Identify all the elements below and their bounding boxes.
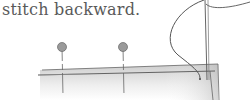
fabric-fold [38, 64, 219, 100]
sewing-illustration [0, 0, 251, 109]
